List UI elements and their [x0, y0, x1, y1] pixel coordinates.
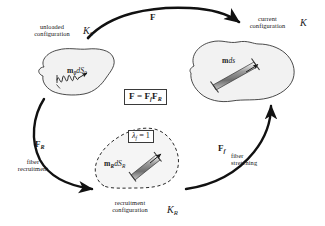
arrow-label-Ff: Ff [218, 144, 226, 154]
recruitment-caption-line2: configuration [97, 207, 163, 214]
current-fiber-label: mds [222, 57, 235, 65]
arrow-label-FR-sub: R [41, 144, 45, 150]
equation-rhs-FR-sub: R [158, 96, 162, 102]
equation-lhs: F [129, 91, 135, 101]
symbol-K0-base: K [83, 25, 90, 36]
arrow-total-deformation [88, 8, 239, 38]
symbol-KR-subscript: R [174, 209, 178, 216]
arrow-label-FR: FR [35, 140, 45, 150]
fiber-stretching-caption: fiber stretching [231, 152, 283, 167]
fiber-recruitment-line2: recruitment [4, 165, 62, 172]
arrow-label-F-base: F [150, 12, 156, 22]
symbol-K0-subscript: 0 [90, 30, 93, 37]
unloaded-fiber-dS-sub: 0 [84, 70, 87, 76]
stretch-ratio-box: λf = 1 [128, 130, 154, 143]
unloaded-configuration-symbol: K0 [83, 26, 93, 38]
unloaded-fiber-dS: dS [76, 66, 84, 75]
decomposition-equation-box: F = FfFR [124, 89, 167, 105]
recruitment-fiber-dS-sub: R [122, 163, 125, 169]
fiber-stretching-line2: stretching [231, 159, 283, 166]
lambda-subscript: f [136, 135, 138, 141]
current-configuration-caption: current configuration [239, 16, 296, 29]
fiber-stretching-line1: fiber [231, 152, 283, 159]
current-caption-line2: configuration [239, 23, 296, 30]
lambda-value: = 1 [139, 131, 150, 140]
recruitment-fiber-label: mRdSR [104, 160, 125, 170]
fiber-recruitment-caption: fiber recruitment [4, 158, 62, 173]
unloaded-caption-line2: configuration [22, 31, 82, 38]
equation-equals: = [137, 91, 142, 101]
recruitment-fiber-dS: dS [114, 159, 122, 168]
arrow-label-F: F [150, 13, 156, 22]
current-fiber-ds: ds [228, 56, 235, 65]
fiber-recruitment-line1: fiber [4, 158, 62, 165]
symbol-K-base: K [300, 17, 307, 28]
unloaded-fiber-label: m0dS0 [67, 67, 87, 77]
symbol-KR-base: K [167, 204, 174, 215]
arrow-label-Ff-sub: f [224, 148, 226, 154]
unloaded-configuration-caption: unloaded configuration [22, 24, 82, 37]
recruitment-configuration-caption: recruitment configuration [97, 200, 163, 213]
recruitment-configuration-symbol: KR [167, 205, 178, 217]
current-configuration-symbol: K [300, 18, 307, 29]
arrow-fiber-stretching [186, 106, 271, 189]
kinematics-diagram: unloaded configuration K0 m0dS0 current … [0, 0, 325, 226]
